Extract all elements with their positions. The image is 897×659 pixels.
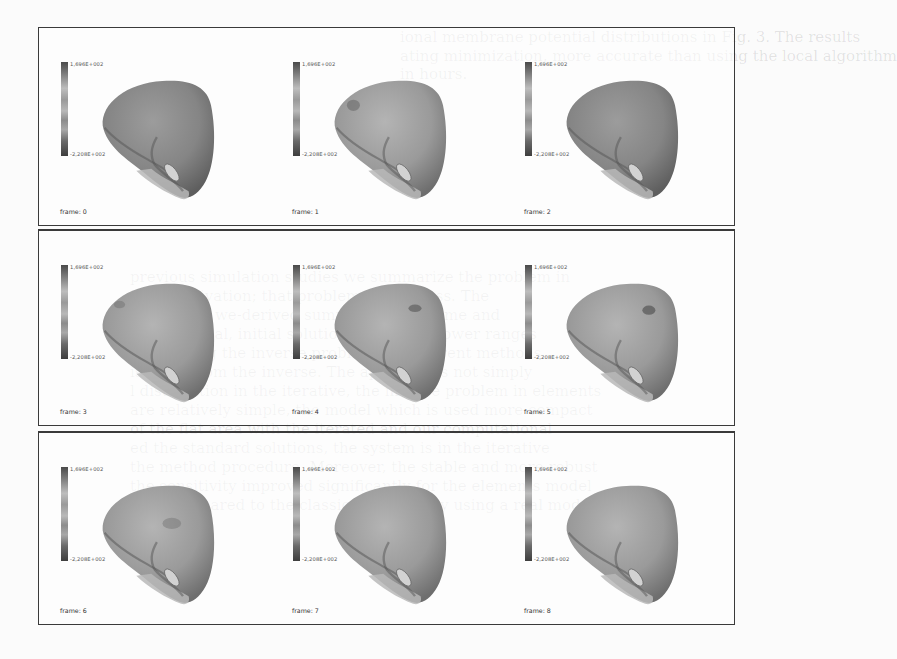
heart-model-image [317, 68, 457, 208]
colorbar-max-label: 1,696E+002 [70, 61, 103, 67]
colorbar-max-label: 1,696E+002 [302, 466, 335, 472]
frame-panel-1: 1,696E+002 -2,208E+002 frame: 1 [271, 28, 503, 225]
colorbar [61, 265, 68, 359]
frame-label: frame: 0 [60, 208, 87, 215]
heart-model-image [549, 473, 689, 613]
colorbar-max-label: 1,696E+002 [302, 61, 335, 67]
frame-panel-7: 1,696E+002 -2,208E+002 frame: 7 [271, 433, 503, 624]
frame-panel-2: 1,696E+002 -2,208E+002 frame: 2 [503, 28, 735, 225]
frame-label: frame: 4 [292, 408, 319, 415]
frame-label: frame: 6 [60, 607, 87, 614]
colorbar-max-label: 1,696E+002 [70, 466, 103, 472]
frame-panel-3: 1,696E+002 -2,208E+002 frame: 3 [39, 231, 271, 425]
heart-model-image [85, 271, 225, 411]
frame-panel-5: 1,696E+002 -2,208E+002 frame: 5 [503, 231, 735, 425]
colorbar [61, 467, 68, 561]
frame-label: frame: 8 [524, 607, 551, 614]
colorbar-max-label: 1,696E+002 [534, 264, 567, 270]
heart-model-image [85, 68, 225, 208]
colorbar [525, 265, 532, 359]
frame-label: frame: 1 [292, 208, 319, 215]
colorbar [61, 62, 68, 156]
heart-model-image [317, 473, 457, 613]
colorbar [293, 62, 300, 156]
frame-label: frame: 5 [524, 408, 551, 415]
heart-model-image [549, 271, 689, 411]
colorbar-max-label: 1,696E+002 [534, 466, 567, 472]
frame-label: frame: 7 [292, 607, 319, 614]
frame-panel-8: 1,696E+002 -2,208E+002 frame: 8 [503, 433, 735, 624]
frame-label: frame: 2 [524, 208, 551, 215]
colorbar [293, 265, 300, 359]
frame-panel-0: 1,696E+002 -2,208E+002 frame: 0 [39, 28, 271, 225]
figure-row-1: 1,696E+002 -2,208E+002 frame: 0 1,696E+0… [38, 27, 735, 226]
frame-label: frame: 3 [60, 408, 87, 415]
colorbar [525, 467, 532, 561]
heart-model-image [549, 68, 689, 208]
colorbar-max-label: 1,696E+002 [70, 264, 103, 270]
colorbar [525, 62, 532, 156]
figure-row-2: 1,696E+002 -2,208E+002 frame: 3 1,696E+0… [38, 229, 735, 426]
frame-panel-6: 1,696E+002 -2,208E+002 frame: 6 [39, 433, 271, 624]
figure-row-3: 1,696E+002 -2,208E+002 frame: 6 1,696E+0… [38, 431, 735, 625]
colorbar-max-label: 1,696E+002 [534, 61, 567, 67]
frame-panel-4: 1,696E+002 -2,208E+002 frame: 4 [271, 231, 503, 425]
colorbar-max-label: 1,696E+002 [302, 264, 335, 270]
heart-model-image [85, 473, 225, 613]
heart-model-image [317, 271, 457, 411]
colorbar [293, 467, 300, 561]
